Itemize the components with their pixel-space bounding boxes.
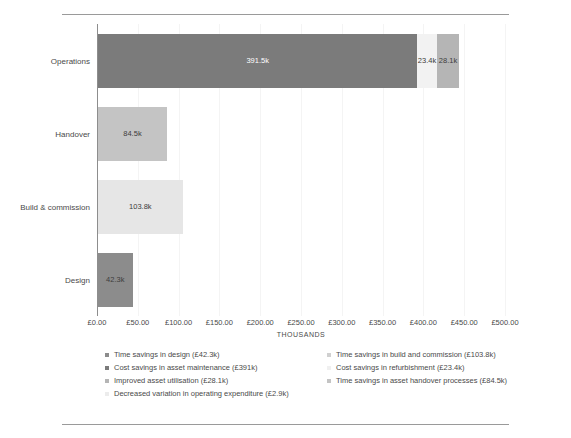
bar-segment[interactable]: 84.5k [98,107,167,161]
axis-tick-label: £450.00 [451,318,478,327]
bar-value-label: 391.5k [246,57,269,65]
legend-item[interactable]: Improved asset utilisation (£28.1k) [105,376,327,386]
bar-value-label: 103.8k [129,203,152,211]
bar-segment[interactable]: 28.1k [437,34,460,88]
header-faint-text [64,0,507,12]
axis-tick-label: £300.00 [328,318,355,327]
legend-label: Improved asset utilisation (£28.1k) [114,376,228,386]
bottom-divider [62,424,509,425]
legend-item[interactable]: Time savings in build and commission (£1… [327,350,549,360]
axis-tick-label: £0.00 [88,318,107,327]
axis-tick-label: £250.00 [287,318,314,327]
legend-label: Decreased variation in operating expendi… [114,389,289,399]
bar-value-label: 42.3k [106,276,124,284]
bar-value-label: 23.4k [418,57,436,65]
bar-row[interactable]: Operations391.5k23.4k28.1k [98,34,459,88]
chart-page: Operations391.5k23.4k28.1kHandover84.5kB… [0,0,571,438]
gridline [505,24,506,316]
axis-tick-label: £400.00 [410,318,437,327]
bar-value-label: 28.1k [439,57,457,65]
legend-swatch-icon [105,353,109,357]
axis-tick-label: £350.00 [369,318,396,327]
bar-value-label: 84.5k [123,130,141,138]
legend-label: Time savings in asset handover processes… [336,376,507,386]
axis-tick-label: £100.00 [165,318,192,327]
axis-tick-label: £150.00 [206,318,233,327]
category-label: Operations [51,56,90,65]
bar-row[interactable]: Build & commission103.8k [98,180,183,234]
legend-label: Cost savings in asset maintenance (£391k… [114,363,257,373]
axis-title: THOUSANDS [97,331,505,338]
legend-item[interactable]: Cost savings in refurbishment (£23.4k) [327,363,549,373]
axis-tick-label: £50.00 [126,318,149,327]
legend: Time savings in design (£42.3k)Time savi… [105,350,545,400]
plot-area: Operations391.5k23.4k28.1kHandover84.5kB… [97,24,505,316]
legend-label: Time savings in build and commission (£1… [336,350,496,360]
legend-item[interactable]: Time savings in asset handover processes… [327,376,549,386]
top-divider [62,14,509,15]
bar-segment[interactable]: 103.8k [98,180,183,234]
legend-label: Time savings in design (£42.3k) [114,350,220,360]
category-label: Design [65,275,90,284]
legend-label: Cost savings in refurbishment (£23.4k) [336,363,464,373]
legend-item[interactable]: Cost savings in asset maintenance (£391k… [105,363,327,373]
bar-segment[interactable]: 391.5k [98,34,417,88]
legend-item[interactable]: Decreased variation in operating expendi… [105,389,549,399]
bar-rows: Operations391.5k23.4k28.1kHandover84.5kB… [98,24,505,316]
legend-swatch-icon [105,392,109,396]
legend-swatch-icon [105,379,109,383]
legend-swatch-icon [327,366,331,370]
category-label: Handover [55,129,90,138]
bar-segment[interactable]: 42.3k [98,253,133,307]
bar-row[interactable]: Design42.3k [98,253,133,307]
legend-swatch-icon [327,379,331,383]
value-axis: £0.00£50.00£100.00£150.00£200.00£250.00£… [97,316,505,332]
axis-tick-label: £500.00 [491,318,518,327]
legend-swatch-icon [105,366,109,370]
bar-row[interactable]: Handover84.5k [98,107,167,161]
legend-swatch-icon [327,353,331,357]
category-label: Build & commission [20,202,90,211]
bar-segment[interactable]: 23.4k [417,34,436,88]
legend-item[interactable]: Time savings in design (£42.3k) [105,350,327,360]
axis-tick-label: £200.00 [247,318,274,327]
